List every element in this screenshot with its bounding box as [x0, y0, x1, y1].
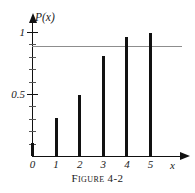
threshold-line	[32, 46, 182, 47]
x-axis-tick-label: 4	[120, 159, 134, 170]
y-axis-tick-label: 0.5	[11, 89, 25, 100]
bar	[102, 56, 105, 156]
bar	[149, 33, 152, 157]
x-axis-tick-label: 5	[144, 159, 158, 170]
bar	[78, 95, 81, 157]
y-axis-minor-tick	[29, 119, 36, 120]
y-axis-minor-tick	[29, 106, 36, 107]
y-axis-tick-label: 1	[20, 27, 26, 38]
y-axis-minor-tick	[29, 57, 36, 58]
y-axis-minor-tick	[29, 82, 36, 83]
y-axis-title: P(x)	[35, 12, 55, 24]
y-axis-major-tick	[27, 32, 38, 33]
x-axis-tick-label: 0	[26, 159, 40, 170]
x-axis-arrow-right-icon	[180, 152, 190, 160]
y-axis-minor-tick	[29, 131, 36, 132]
bar	[125, 37, 128, 156]
y-axis-major-tick	[27, 94, 38, 95]
figure-caption: Figure 4-2	[0, 173, 195, 184]
x-axis-tick-label: 3	[96, 159, 110, 170]
bar	[55, 118, 58, 156]
y-axis-minor-tick	[29, 69, 36, 70]
bar	[31, 143, 34, 157]
y-axis-line	[32, 22, 33, 157]
x-axis-tick-label: 2	[73, 159, 87, 170]
plot-area: P(x) x 0.51 012345	[0, 0, 195, 168]
x-axis-title: x	[170, 160, 175, 171]
figure-container: P(x) x 0.51 012345 Figure 4-2	[0, 0, 195, 193]
x-axis-tick-label: 1	[49, 159, 63, 170]
